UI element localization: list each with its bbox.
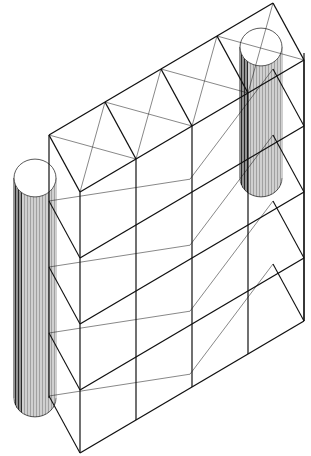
floor-brace <box>190 201 273 311</box>
floor-brace <box>49 311 190 333</box>
right-cylinder <box>240 28 282 197</box>
roof-back-edge <box>49 102 105 135</box>
roof-back-edge <box>161 36 217 69</box>
roof-rib <box>105 102 136 159</box>
floor-brace <box>49 179 190 201</box>
floor-side-edge <box>273 264 304 321</box>
structure-drawing <box>0 0 311 456</box>
floor-brace <box>190 69 273 179</box>
left-cylinder <box>14 159 56 417</box>
roof-back-edge <box>105 69 161 102</box>
roof-diagonal <box>49 135 136 159</box>
floor-brace <box>49 374 190 396</box>
floor-brace <box>49 245 190 267</box>
floor-side-edge <box>49 267 80 324</box>
floor-side-edge <box>273 201 304 258</box>
floor-side-edge <box>49 333 80 390</box>
floor-side-edge <box>49 396 80 453</box>
roof-rib <box>161 69 192 126</box>
roof-diagonal <box>161 69 248 93</box>
roof-diagonal <box>105 102 192 126</box>
floor-side-edge <box>49 201 80 258</box>
floor-brace <box>190 264 273 374</box>
floor-brace <box>190 135 273 245</box>
